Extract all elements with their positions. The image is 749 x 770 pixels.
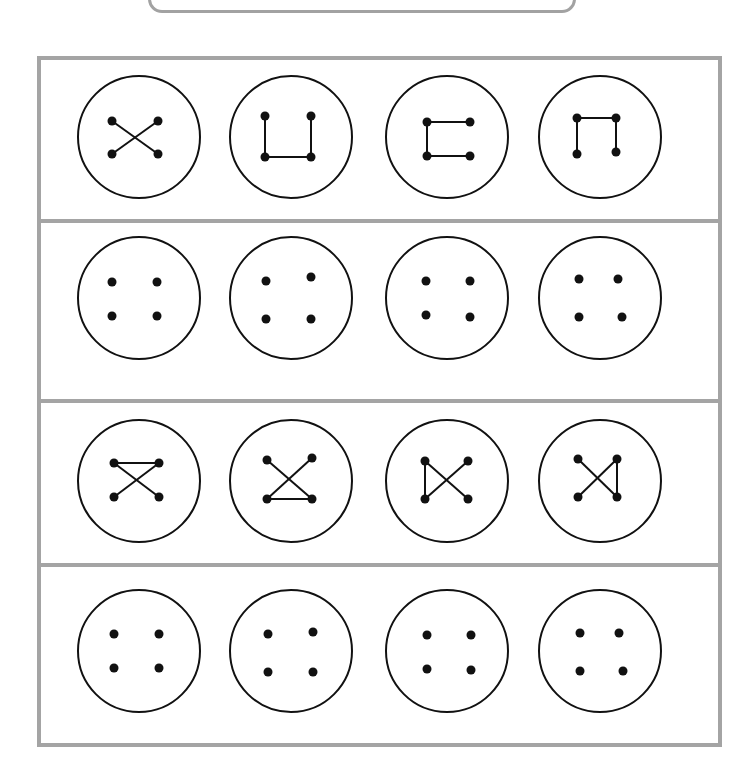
button-right-bar-X-3-4: [539, 420, 661, 542]
button-dots-4-1: [78, 590, 200, 712]
buttons-canvas: [0, 0, 749, 770]
buttonhole-dot-br: [466, 152, 475, 161]
button-dots-2-4: [539, 237, 661, 359]
button-C-1-3: [386, 76, 508, 198]
button-outline-icon: [78, 76, 200, 198]
buttonhole-dot-tl: [262, 277, 271, 286]
buttonhole-dot-tl: [575, 275, 584, 284]
buttonhole-dot-br: [619, 667, 628, 676]
buttonhole-dot-tl: [423, 631, 432, 640]
buttonhole-dot-bl: [423, 665, 432, 674]
button-X-1-1: [78, 76, 200, 198]
buttonhole-dot-tr: [464, 457, 473, 466]
buttonhole-dot-bl: [110, 493, 119, 502]
buttonhole-dot-tl: [574, 455, 583, 464]
buttonhole-dot-tr: [466, 277, 475, 286]
buttonhole-dot-tl: [263, 456, 272, 465]
buttonhole-dot-bl: [262, 315, 271, 324]
button-outline-icon: [230, 76, 352, 198]
button-bottom-bar-X-3-2: [230, 420, 352, 542]
buttonhole-dot-bl: [574, 493, 583, 502]
buttonhole-dot-br: [155, 664, 164, 673]
buttonhole-dot-tl: [421, 457, 430, 466]
buttonhole-dot-tr: [309, 628, 318, 637]
button-dots-2-1: [78, 237, 200, 359]
buttonhole-dot-tl: [573, 114, 582, 123]
buttonhole-dot-tl: [108, 117, 117, 126]
button-left-bar-X-3-3: [386, 420, 508, 542]
row-1-pattern: [78, 76, 661, 198]
button-dots-2-2: [230, 237, 352, 359]
buttonhole-dot-tr: [614, 275, 623, 284]
buttonhole-dot-tr: [155, 459, 164, 468]
button-dots-4-2: [230, 590, 352, 712]
buttonhole-dot-tl: [261, 112, 270, 121]
buttonhole-dot-bl: [573, 150, 582, 159]
buttonhole-dot-tr: [466, 118, 475, 127]
buttonhole-dot-tl: [110, 459, 119, 468]
buttonhole-dot-br: [153, 312, 162, 321]
buttonhole-dot-bl: [422, 311, 431, 320]
button-U-1-2: [230, 76, 352, 198]
buttonhole-dot-tr: [153, 278, 162, 287]
buttonhole-dot-bl: [110, 664, 119, 673]
button-outline-icon: [386, 590, 508, 712]
buttonhole-dot-br: [464, 495, 473, 504]
buttonhole-dot-bl: [261, 153, 270, 162]
buttonhole-dot-tr: [615, 629, 624, 638]
buttonhole-dot-bl: [576, 667, 585, 676]
buttonhole-dot-br: [618, 313, 627, 322]
buttonhole-dot-bl: [423, 152, 432, 161]
buttonhole-dot-bl: [421, 495, 430, 504]
button-top-bar-X-3-1: [78, 420, 200, 542]
buttonhole-dot-br: [309, 668, 318, 677]
buttonhole-dot-tr: [613, 455, 622, 464]
buttonhole-dot-br: [154, 150, 163, 159]
buttonhole-dot-tl: [423, 118, 432, 127]
buttonhole-dot-tr: [612, 114, 621, 123]
buttonhole-dot-tr: [308, 454, 317, 463]
buttonhole-dot-br: [466, 313, 475, 322]
buttonhole-dot-br: [613, 493, 622, 502]
button-dots-4-4: [539, 590, 661, 712]
buttonhole-dot-bl: [263, 495, 272, 504]
button-outline-icon: [230, 237, 352, 359]
buttonhole-dot-br: [467, 666, 476, 675]
buttonhole-dot-br: [308, 495, 317, 504]
buttonhole-dot-br: [155, 493, 164, 502]
button-outline-icon: [539, 237, 661, 359]
buttonhole-dot-br: [307, 153, 316, 162]
button-outline-icon: [78, 237, 200, 359]
buttonhole-dot-tl: [422, 277, 431, 286]
button-dots-4-3: [386, 590, 508, 712]
buttonhole-dot-tr: [307, 112, 316, 121]
buttonhole-dot-bl: [264, 668, 273, 677]
buttonhole-dot-tl: [264, 630, 273, 639]
buttonhole-dot-tr: [154, 117, 163, 126]
button-outline-icon: [539, 76, 661, 198]
buttonhole-dot-bl: [108, 312, 117, 321]
buttonhole-dot-br: [612, 148, 621, 157]
button-outline-icon: [386, 237, 508, 359]
button-outline-icon: [78, 590, 200, 712]
button-outline-icon: [230, 590, 352, 712]
buttonhole-dot-bl: [108, 150, 117, 159]
row-4-blank: [78, 590, 661, 712]
buttonhole-dot-tr: [155, 630, 164, 639]
button-outline-icon: [386, 76, 508, 198]
button-n-1-4: [539, 76, 661, 198]
buttonhole-dot-tl: [110, 630, 119, 639]
button-outline-icon: [539, 590, 661, 712]
row-3-pattern: [78, 420, 661, 542]
buttonhole-dot-br: [307, 315, 316, 324]
buttonhole-dot-tr: [307, 273, 316, 282]
buttonhole-dot-tl: [108, 278, 117, 287]
buttonhole-dot-bl: [575, 313, 584, 322]
row-2-blank: [78, 237, 661, 359]
button-dots-2-3: [386, 237, 508, 359]
buttonhole-dot-tr: [467, 631, 476, 640]
buttonhole-dot-tl: [576, 629, 585, 638]
